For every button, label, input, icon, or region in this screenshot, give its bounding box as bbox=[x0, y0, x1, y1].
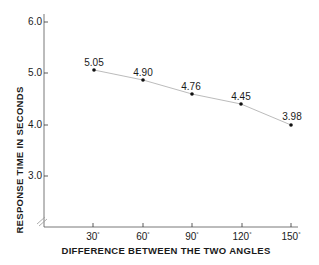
x-tick-label: 150° bbox=[281, 231, 301, 242]
data-point bbox=[239, 102, 243, 106]
chart-canvas: 6.0 5.0 4.0 3.0 30° 60° 90° 120° 150° 5.… bbox=[0, 0, 319, 265]
data-point bbox=[190, 92, 194, 96]
x-tick-label: 30° bbox=[86, 231, 100, 242]
y-axis-title: RESPONSE TIME IN SECONDS bbox=[14, 86, 25, 233]
data-label: 4.45 bbox=[231, 91, 251, 102]
y-tick-label: 4.0 bbox=[28, 119, 42, 130]
data-label: 3.98 bbox=[282, 111, 302, 122]
data-label: 4.90 bbox=[133, 67, 153, 78]
axis-break-icon bbox=[37, 217, 47, 226]
x-ticks: 30° 60° 90° 120° 150° bbox=[86, 223, 301, 242]
data-point bbox=[289, 123, 293, 127]
y-ticks: 6.0 5.0 4.0 3.0 bbox=[28, 16, 48, 181]
data-points bbox=[92, 68, 293, 127]
x-tick-label: 90° bbox=[185, 231, 199, 242]
x-axis-title: DIFFERENCE BETWEEN THE TWO ANGLES bbox=[61, 245, 270, 256]
data-line bbox=[94, 70, 291, 125]
x-tick-label: 120° bbox=[232, 231, 252, 242]
data-point bbox=[92, 68, 96, 72]
y-tick-label: 5.0 bbox=[28, 67, 42, 78]
data-label: 4.76 bbox=[181, 81, 201, 92]
x-tick-label: 60° bbox=[136, 231, 150, 242]
y-tick-label: 3.0 bbox=[28, 170, 42, 181]
data-point bbox=[141, 78, 145, 82]
y-tick-label: 6.0 bbox=[28, 16, 42, 27]
data-label: 5.05 bbox=[84, 57, 104, 68]
data-labels: 5.05 4.90 4.76 4.45 3.98 bbox=[84, 57, 302, 122]
